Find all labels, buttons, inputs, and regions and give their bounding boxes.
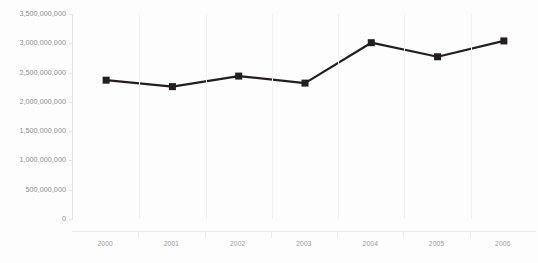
data-point-marker (500, 37, 507, 44)
data-point-marker (302, 80, 309, 87)
y-axis-tick-mark (69, 43, 73, 44)
line-chart: 0500,000,0001,000,000,0001,500,000,0002,… (0, 0, 538, 263)
y-axis-tick-mark (69, 73, 73, 74)
vertical-gridline (404, 14, 405, 219)
y-axis-tick-label: 2,500,000,000 (8, 69, 66, 76)
vertical-gridline (471, 14, 472, 219)
y-axis-tick-label: 500,000,000 (8, 186, 66, 193)
x-axis: 2000200120022003200420052006 (72, 231, 536, 253)
data-point-marker (434, 53, 441, 60)
x-axis-tick-label: 2003 (296, 237, 311, 248)
data-point-marker (169, 83, 176, 90)
x-axis-tick: 2001 (138, 232, 204, 253)
data-point-marker (235, 73, 242, 80)
y-axis-tick-label: 3,000,000,000 (8, 40, 66, 47)
x-axis-tick: 2004 (337, 232, 403, 253)
vertical-gridline (272, 14, 273, 219)
x-axis-tick-label: 2001 (164, 237, 179, 248)
x-axis-tick: 2003 (271, 232, 337, 253)
y-axis-tick-label: 1,000,000,000 (8, 157, 66, 164)
x-axis-tick: 2005 (403, 232, 469, 253)
data-point-marker (368, 39, 375, 46)
x-axis-tick-label: 2004 (363, 237, 378, 248)
y-axis-tick-mark (69, 160, 73, 161)
x-axis-tick: 2002 (205, 232, 271, 253)
x-axis-tick-label: 2005 (429, 237, 444, 248)
y-axis-tick-mark (69, 131, 73, 132)
y-axis-tick-label: 2,000,000,000 (8, 98, 66, 105)
x-axis-tick: 2006 (470, 232, 536, 253)
y-axis-tick-label: 3,500,000,000 (8, 10, 66, 17)
series-line (73, 14, 537, 219)
x-axis-tick-label: 2002 (230, 237, 245, 248)
y-axis-tick-mark (69, 190, 73, 191)
y-axis-tick-mark (69, 14, 73, 15)
plot-area (72, 14, 536, 219)
vertical-gridline (206, 14, 207, 219)
y-axis-tick-label: 0 (8, 215, 66, 222)
x-axis-tick-label: 2000 (97, 237, 112, 248)
data-point-marker (103, 77, 110, 84)
x-axis-tick-label: 2006 (495, 237, 510, 248)
x-axis-tick: 2000 (72, 232, 138, 253)
y-axis: 0500,000,0001,000,000,0001,500,000,0002,… (0, 0, 66, 263)
y-axis-tick-label: 1,500,000,000 (8, 128, 66, 135)
y-axis-tick-mark (69, 102, 73, 103)
vertical-gridline (139, 14, 140, 219)
vertical-gridline (338, 14, 339, 219)
y-axis-tick-mark (69, 219, 73, 220)
